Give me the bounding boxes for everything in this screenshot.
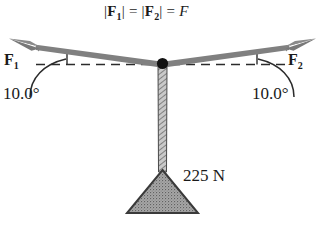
rope (158, 64, 167, 172)
force-left-symbol: F (4, 51, 14, 68)
force-vector-left-arrow (9, 39, 161, 68)
eq-bar-2: | (122, 3, 125, 19)
force-right-symbol: F (288, 51, 298, 68)
force-left-subscript: 1 (14, 60, 19, 71)
angle-left-label: 10.0° (3, 85, 40, 102)
eq-f2-symbol: F (145, 3, 154, 19)
angle-right-label: 10.0° (252, 85, 289, 102)
physics-force-diagram: |F1| = |F2| = F F1 F2 10.0° 10.0° 225 N (0, 0, 325, 234)
eq-equals-2: = (167, 3, 176, 19)
junction-point (157, 58, 168, 69)
eq-result-symbol: F (179, 3, 188, 19)
force-equality-equation: |F1| = |F2| = F (104, 4, 189, 22)
diagram-canvas (0, 0, 325, 234)
eq-equals-1: = (129, 3, 138, 19)
eq-f1-symbol: F (107, 3, 116, 19)
force-right-subscript: 2 (298, 60, 303, 71)
force-left-label: F1 (4, 52, 19, 71)
weight-label: 225 N (183, 167, 225, 184)
force-right-label: F2 (288, 52, 303, 71)
eq-bar-4: | (159, 3, 162, 19)
